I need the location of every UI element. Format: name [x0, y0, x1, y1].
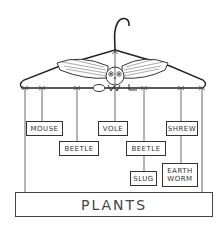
- node-slug: SLUG: [130, 171, 157, 186]
- hanger-hook: [115, 19, 129, 50]
- node-earthworm: EARTH WORM: [162, 163, 198, 187]
- node-shrew: SHREW: [166, 121, 198, 136]
- node-beetle-left: BEETLE: [59, 141, 99, 156]
- owl-icon: [57, 59, 168, 85]
- node-vole: VOLE: [98, 121, 128, 136]
- node-mouse: MOUSE: [26, 121, 63, 136]
- base-plants: PLANTS: [15, 192, 213, 217]
- node-beetle-right: BEETLE: [126, 141, 166, 156]
